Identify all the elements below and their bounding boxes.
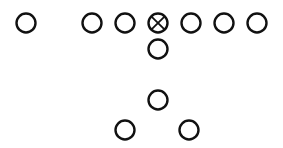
right-guard-circle-icon: [182, 14, 201, 33]
right-halfback-circle-icon: [180, 121, 199, 140]
left-guard-circle-icon: [116, 14, 135, 33]
center-circle-x-icon: [149, 14, 168, 33]
split-end-circle-icon: [17, 14, 36, 33]
fullback-circle-icon: [149, 91, 168, 110]
left-tackle-circle-icon: [83, 14, 102, 33]
formation-svg: [0, 0, 283, 148]
right-tackle-circle-icon: [215, 14, 234, 33]
left-halfback-circle-icon: [116, 121, 135, 140]
tight-end-circle-icon: [248, 14, 267, 33]
formation-diagram: [0, 0, 283, 148]
quarterback-circle-icon: [149, 40, 168, 59]
